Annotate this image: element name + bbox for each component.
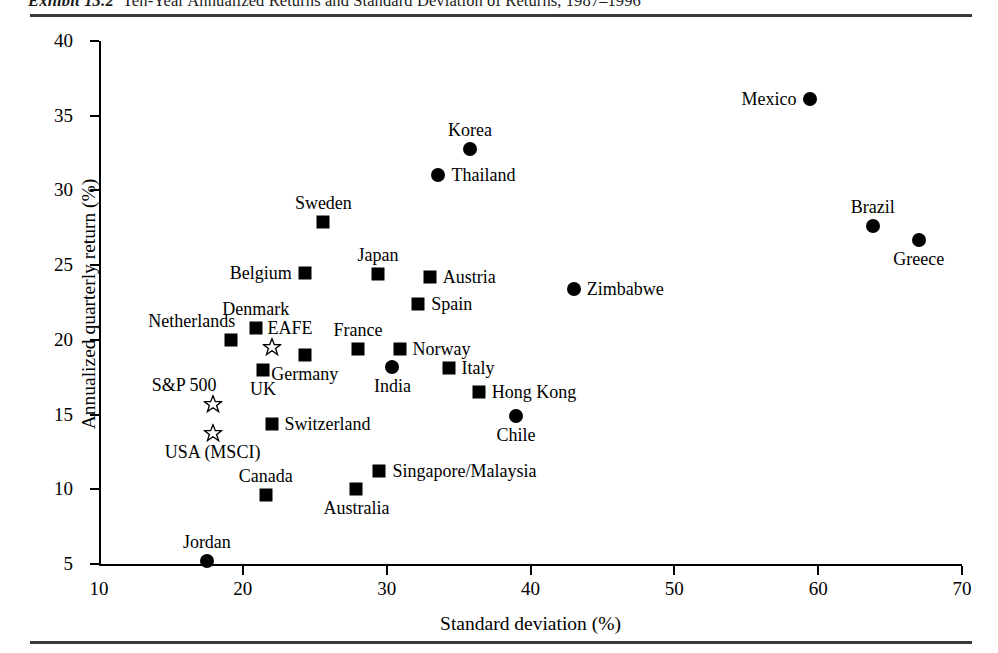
y-tick-mark: [90, 488, 99, 490]
data-label-hong-kong: Hong Kong: [492, 383, 577, 401]
x-axis-title: Standard deviation (%): [99, 613, 962, 635]
exhibit-title: Exhibit 13.2Ten-Year Annualized Returns …: [28, 0, 978, 13]
data-point-mexico[interactable]: [803, 92, 817, 106]
data-label-chile: Chile: [497, 426, 536, 444]
data-label-japan: Japan: [358, 246, 399, 264]
data-label-zimbabwe: Zimbabwe: [587, 280, 664, 298]
x-tick-mark: [817, 566, 819, 575]
data-point-france[interactable]: [351, 342, 364, 355]
data-point-s-p-500[interactable]: [203, 395, 222, 414]
data-point-spain[interactable]: [412, 297, 425, 310]
data-label-s-p-500: S&P 500: [152, 376, 217, 394]
x-tick-label: 20: [233, 578, 252, 600]
y-tick-label: 40: [54, 30, 86, 52]
data-label-jordan: Jordan: [183, 533, 231, 551]
data-point-singapore-malaysia[interactable]: [373, 465, 386, 478]
data-label-korea: Korea: [448, 121, 492, 139]
data-point-thailand[interactable]: [431, 168, 445, 182]
data-point-hong-kong[interactable]: [472, 386, 485, 399]
x-tick-mark: [530, 566, 532, 575]
data-label-switzerland: Switzerland: [285, 415, 371, 433]
data-point-greece[interactable]: [912, 233, 926, 247]
data-point-japan[interactable]: [372, 268, 385, 281]
data-point-eafe[interactable]: [262, 338, 281, 357]
x-tick-label: 30: [377, 578, 396, 600]
data-point-norway[interactable]: [393, 342, 406, 355]
x-tick-label: 50: [665, 578, 684, 600]
data-label-france: France: [333, 321, 382, 339]
data-point-germany[interactable]: [298, 348, 311, 361]
data-point-brazil[interactable]: [866, 219, 880, 233]
data-point-usa-msci[interactable]: [203, 423, 222, 442]
data-point-australia[interactable]: [350, 483, 363, 496]
data-label-spain: Spain: [431, 295, 472, 313]
scatter-plot-area: 510152025303540 10203040506070 Annualize…: [99, 41, 962, 566]
divider-bottom: [30, 641, 972, 644]
data-point-switzerland[interactable]: [265, 417, 278, 430]
data-label-italy: Italy: [462, 359, 495, 377]
exhibit-figure: Exhibit 13.2Ten-Year Annualized Returns …: [0, 0, 998, 653]
data-label-india: India: [374, 377, 411, 395]
data-label-belgium: Belgium: [230, 264, 292, 282]
data-point-jordan[interactable]: [200, 554, 214, 568]
data-label-germany: Germany: [271, 365, 338, 383]
y-tick-label: 35: [54, 105, 86, 127]
x-tick-mark: [673, 566, 675, 575]
y-tick-mark: [90, 115, 99, 117]
data-point-korea[interactable]: [463, 142, 477, 156]
data-label-usa-msci: USA (MSCI): [165, 443, 261, 461]
data-label-thailand: Thailand: [451, 166, 515, 184]
data-label-brazil: Brazil: [851, 198, 895, 216]
data-label-uk: UK: [250, 380, 276, 398]
x-tick-mark: [386, 566, 388, 575]
divider-top: [30, 14, 972, 17]
data-label-singapore-malaysia: Singapore/Malaysia: [392, 462, 536, 480]
y-tick-label: 5: [64, 553, 87, 575]
x-tick-label: 70: [953, 578, 972, 600]
data-label-mexico: Mexico: [742, 90, 797, 108]
exhibit-number: Exhibit 13.2: [28, 0, 114, 10]
data-point-chile[interactable]: [509, 409, 523, 423]
data-label-norway: Norway: [413, 340, 471, 358]
data-point-uk[interactable]: [256, 363, 269, 376]
x-tick-label: 60: [809, 578, 828, 600]
y-tick-mark: [90, 40, 99, 42]
data-point-denmark[interactable]: [249, 321, 262, 334]
data-point-belgium[interactable]: [298, 266, 311, 279]
data-point-italy[interactable]: [442, 362, 455, 375]
x-tick-mark: [242, 566, 244, 575]
data-point-austria[interactable]: [423, 271, 436, 284]
y-tick-label: 10: [54, 478, 86, 500]
data-point-india[interactable]: [385, 360, 399, 374]
exhibit-caption: Ten-Year Annualized Returns and Standard…: [114, 0, 641, 10]
data-label-eafe: EAFE: [268, 319, 313, 337]
x-tick-label: 10: [90, 578, 109, 600]
data-label-netherlands: Netherlands: [148, 312, 235, 330]
data-label-canada: Canada: [239, 467, 293, 485]
x-tick-mark: [961, 566, 963, 575]
data-label-sweden: Sweden: [295, 194, 352, 212]
x-tick-label: 40: [521, 578, 540, 600]
data-label-australia: Australia: [323, 499, 389, 517]
y-axis-title: Annualized quarterly return (%): [78, 178, 100, 429]
data-label-greece: Greece: [893, 250, 944, 268]
data-point-canada[interactable]: [259, 489, 272, 502]
y-tick-mark: [90, 563, 99, 565]
data-label-austria: Austria: [443, 268, 496, 286]
data-point-netherlands[interactable]: [225, 333, 238, 346]
data-point-zimbabwe[interactable]: [567, 282, 581, 296]
data-point-sweden[interactable]: [317, 215, 330, 228]
